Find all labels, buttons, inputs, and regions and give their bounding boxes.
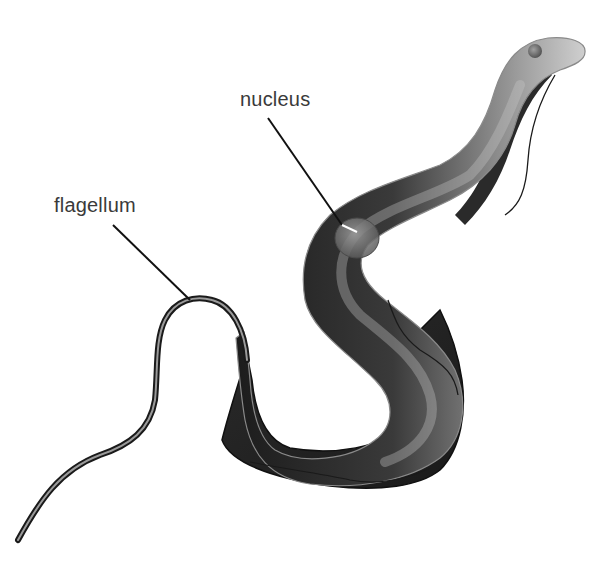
flagellum-label: flagellum — [54, 194, 136, 217]
trypanosome-illustration — [0, 0, 601, 562]
flagellum-strand — [18, 298, 247, 540]
nucleus-leader-line — [268, 118, 342, 225]
nucleus-label: nucleus — [240, 88, 310, 111]
kinetoplast — [528, 44, 542, 58]
trypanosome-diagram: nucleus flagellum — [0, 0, 601, 562]
flagellum-leader-line — [113, 225, 190, 300]
